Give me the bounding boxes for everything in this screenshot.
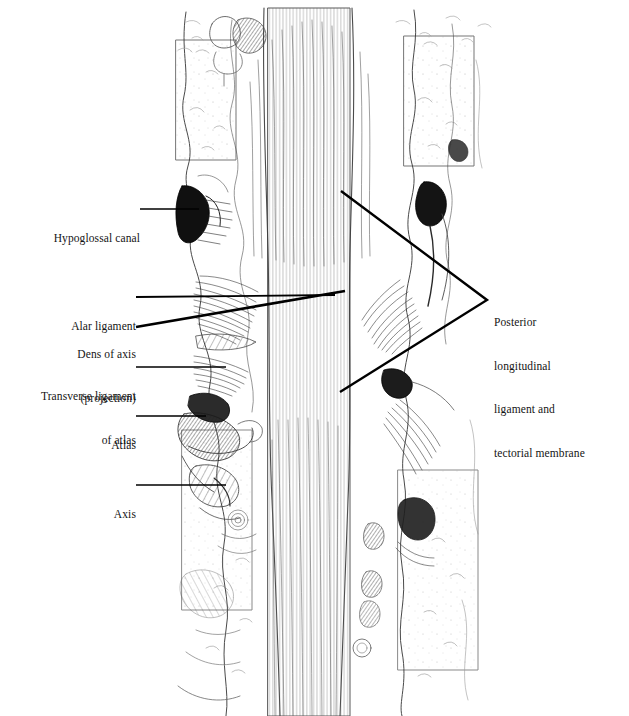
label-posterior-line1: Posterior (494, 315, 585, 330)
label-axis-text: Axis (114, 507, 136, 522)
label-posterior-line3: ligament and (494, 402, 585, 417)
label-atlas: Atlas (111, 409, 136, 482)
label-hypoglossal-canal-text: Hypoglossal canal (54, 231, 140, 246)
label-transverse-ligament-line1: Transverse ligament (41, 389, 136, 404)
anatomical-plate: Hypoglossal canal Alar ligament Dens of … (0, 0, 629, 716)
label-axis: Axis (114, 478, 136, 551)
posterior-longitudinal-bracket (340, 191, 487, 392)
label-posterior-line2: longitudinal (494, 359, 585, 374)
label-hypoglossal-canal: Hypoglossal canal (54, 202, 140, 275)
label-atlas-text: Atlas (111, 438, 136, 453)
label-posterior-longitudinal-ligament: Posterior longitudinal ligament and tect… (494, 286, 585, 489)
label-posterior-line4: tectorial membrane (494, 446, 585, 461)
